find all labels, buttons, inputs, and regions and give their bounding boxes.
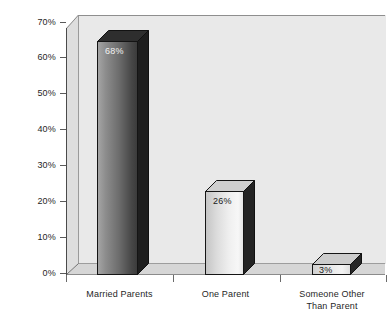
x-tick-3 (386, 275, 387, 282)
y-axis-label-40: 40% (16, 125, 56, 134)
bar-value-label-married-parents: 68% (105, 46, 124, 56)
bar-one-parent[interactable]: 26% (205, 170, 255, 275)
x-axis-label-someone-other: Someone Other Than Parent (275, 288, 389, 312)
bar-value-label-someone-other: 3% (319, 265, 332, 275)
x-tick-0 (66, 275, 67, 282)
y-axis-label-0: 0% (16, 269, 56, 278)
y-axis-label-50: 50% (16, 89, 56, 98)
y-axis-label-20: 20% (16, 197, 56, 206)
bar-one-parent-3d (205, 170, 255, 275)
bar-married-parents[interactable]: 68% (97, 20, 149, 275)
y-axis-label-60: 60% (16, 53, 56, 62)
bar-value-label-one-parent: 26% (213, 196, 232, 206)
plot-floor-left-diagonal (66, 263, 80, 276)
y-tick-40 (60, 129, 66, 130)
x-axis-label-married-parents: Married Parents (62, 288, 177, 300)
y-tick-20 (60, 201, 66, 202)
x-axis-label-one-parent: One Parent (168, 288, 283, 300)
y-axis-label-10: 10% (16, 233, 56, 242)
plot-back-wall-top-edge (78, 15, 385, 16)
x-axis-label-someone-other-line1: Someone Other (275, 288, 389, 300)
x-tick-2 (280, 275, 281, 282)
y-tick-60 (60, 57, 66, 58)
y-tick-0 (60, 273, 66, 274)
plot-left-wall-top-edge (66, 15, 79, 29)
x-axis-label-married-parents-line1: Married Parents (62, 288, 177, 300)
y-axis-line (66, 28, 67, 275)
bar-married-parents-3d (97, 20, 149, 275)
x-axis-label-one-parent-line1: One Parent (168, 288, 283, 300)
plot-left-wall (66, 15, 79, 275)
y-tick-10 (60, 237, 66, 238)
y-tick-30 (60, 165, 66, 166)
chart-3d-scene (0, 0, 389, 328)
y-axis-label-30: 30% (16, 161, 56, 170)
bar-chart: 70% 60% 50% 40% 30% 20% 10% 0% (0, 0, 389, 328)
x-tick-1 (173, 275, 174, 282)
y-tick-70 (60, 22, 66, 23)
y-tick-50 (60, 93, 66, 94)
y-axis-label-70: 70% (16, 18, 56, 27)
bar-someone-other-than-parent[interactable]: 3% (312, 253, 362, 275)
x-axis-label-someone-other-line2: Than Parent (275, 300, 389, 312)
